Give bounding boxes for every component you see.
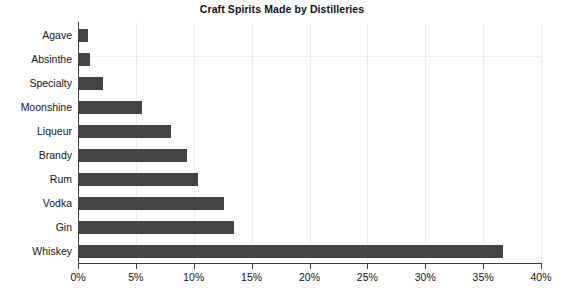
- bar: [78, 125, 171, 138]
- x-axis-tick-label: 25%: [337, 271, 397, 283]
- y-axis-category-label: Absinthe: [0, 53, 72, 66]
- x-axis-tick-label: 20%: [280, 271, 340, 283]
- bar: [78, 149, 187, 162]
- x-axis-tick-label: 30%: [395, 271, 455, 283]
- x-axis-tick: [483, 264, 484, 269]
- x-axis-tick-label: 5%: [106, 271, 166, 283]
- bar: [78, 77, 103, 90]
- x-axis-tick-label: 0%: [48, 271, 108, 283]
- y-axis-category-label: Liqueur: [0, 125, 72, 138]
- chart-title: Craft Spirits Made by Distilleries: [0, 3, 564, 15]
- x-axis-tick: [310, 264, 311, 269]
- bar-chart: Craft Spirits Made by Distilleries 0%5%1…: [0, 0, 564, 307]
- bar: [78, 53, 90, 66]
- bar: [78, 245, 503, 258]
- x-axis-tick: [541, 264, 542, 269]
- x-axis-tick-label: 35%: [453, 271, 513, 283]
- gridline-vertical: [425, 22, 426, 263]
- y-axis-category-label: Brandy: [0, 149, 72, 162]
- y-axis-category-label: Agave: [0, 29, 72, 42]
- gridline-vertical: [483, 22, 484, 263]
- gridline-vertical: [310, 22, 311, 263]
- bar: [78, 101, 142, 114]
- x-axis-tick-label: 10%: [164, 271, 224, 283]
- bar: [78, 197, 224, 210]
- y-axis-category-label: Whiskey: [0, 245, 72, 258]
- gridline-horizontal: [78, 56, 541, 57]
- y-axis-category-label: Specialty: [0, 77, 72, 90]
- y-axis-category-label: Rum: [0, 173, 72, 186]
- x-axis-tick: [136, 264, 137, 269]
- x-axis-tick: [252, 264, 253, 269]
- x-axis-tick: [194, 264, 195, 269]
- y-axis-category-label: Gin: [0, 221, 72, 234]
- bar: [78, 29, 88, 42]
- x-axis-tick: [425, 264, 426, 269]
- gridline-vertical: [541, 22, 542, 263]
- gridline-vertical: [367, 22, 368, 263]
- bar: [78, 221, 234, 234]
- x-axis-tick-label: 40%: [511, 271, 564, 283]
- bar: [78, 173, 198, 186]
- x-axis-tick: [78, 264, 79, 269]
- x-axis-tick: [367, 264, 368, 269]
- y-axis-category-label: Vodka: [0, 197, 72, 210]
- gridline-vertical: [252, 22, 253, 263]
- x-axis-tick-label: 15%: [222, 271, 282, 283]
- y-axis-category-label: Moonshine: [0, 101, 72, 114]
